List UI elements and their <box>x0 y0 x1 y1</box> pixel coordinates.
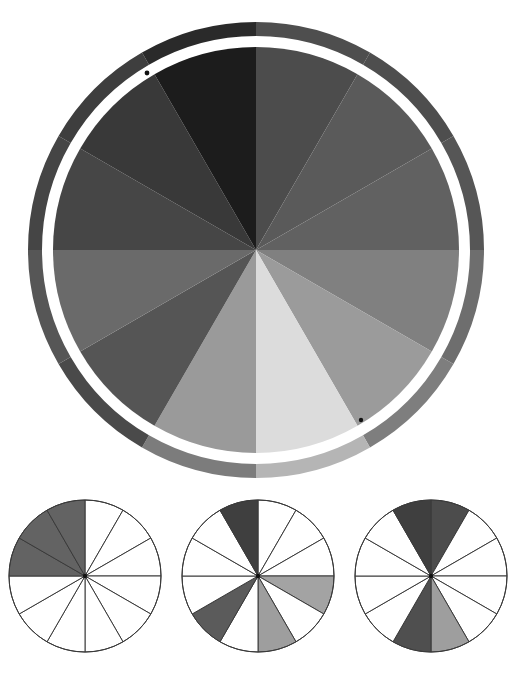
small-pie-1[interactable] <box>0 480 175 689</box>
small-pie-2-canvas <box>173 480 348 689</box>
value-wheel[interactable] <box>0 0 517 500</box>
page-root <box>0 0 517 689</box>
marker-dot-top-left <box>145 71 150 76</box>
small-pie-2[interactable] <box>173 480 348 689</box>
small-pies-row <box>0 480 517 689</box>
small-pie-1-center-dot <box>83 574 87 578</box>
small-pie-1-canvas <box>0 480 175 689</box>
marker-dot-bottom-right <box>359 418 363 422</box>
wheel-sectors <box>53 47 459 453</box>
small-pie-2-center-dot <box>256 574 260 578</box>
value-wheel-canvas <box>0 0 517 500</box>
small-pie-3[interactable] <box>346 480 517 689</box>
small-pie-3-canvas <box>346 480 517 689</box>
small-pie-3-center-dot <box>429 574 433 578</box>
